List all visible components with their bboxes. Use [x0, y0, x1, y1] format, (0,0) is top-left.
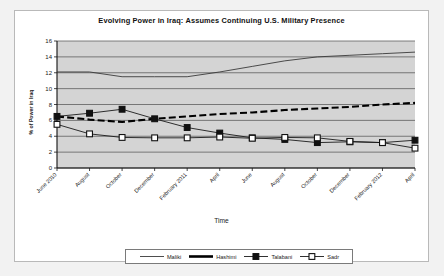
legend-label-maliki: Maliki — [167, 254, 181, 260]
x-tick-label: April — [404, 171, 416, 183]
legend-item-talabani[interactable]: Talabani — [243, 252, 292, 261]
y-tick-label: 10 — [45, 86, 52, 92]
data-point-talabani — [152, 116, 158, 122]
chart-legend: MalikiHashimiTalabaniSadr — [125, 249, 353, 264]
legend-item-hashimi[interactable]: Hashimi — [188, 252, 236, 261]
x-tick-label: December — [328, 171, 351, 194]
x-axis-title: Time — [15, 217, 428, 224]
data-point-sadr — [152, 135, 158, 141]
data-point-sadr — [184, 135, 190, 141]
data-point-sadr — [347, 139, 353, 145]
y-tick-label: 14 — [45, 54, 52, 60]
legend-swatch-maliki — [139, 252, 165, 261]
data-point-talabani — [184, 125, 190, 131]
x-tick-label: October — [300, 171, 318, 189]
legend-label-talabani: Talabani — [271, 254, 292, 260]
y-tick-label: 0 — [49, 165, 53, 171]
data-point-sadr — [119, 135, 125, 141]
data-point-sadr — [87, 131, 93, 137]
legend-label-sadr: Sadr — [327, 254, 339, 260]
y-tick-label: 4 — [49, 133, 53, 139]
legend-swatch-hashimi — [188, 252, 214, 261]
data-point-talabani — [119, 106, 125, 112]
legend-swatch-sadr — [299, 252, 325, 261]
y-tick-label: 2 — [49, 149, 53, 155]
data-point-sadr — [314, 135, 320, 141]
x-tick-label: June 2010 — [35, 171, 58, 194]
x-tick-label: August — [269, 171, 286, 188]
y-tick-label: 6 — [49, 117, 53, 123]
x-tick-label: December — [133, 171, 156, 194]
x-tick-label: June — [240, 171, 253, 184]
x-tick-label: August — [74, 171, 91, 188]
data-point-sadr — [282, 135, 288, 141]
data-point-sadr — [249, 135, 255, 141]
data-point-talabani — [412, 137, 418, 143]
legend-label-hashimi: Hashimi — [216, 254, 236, 260]
legend-swatch-talabani — [243, 252, 269, 261]
x-tick-label: October — [104, 171, 122, 189]
y-tick-label: 8 — [49, 102, 53, 108]
data-point-sadr — [412, 145, 418, 151]
data-point-sadr — [217, 134, 223, 140]
x-tick-label: April — [208, 171, 220, 183]
chart-frame: Evolving Power in Iraq: Assumes Continui… — [14, 10, 429, 262]
legend-item-maliki[interactable]: Maliki — [139, 252, 181, 261]
data-point-talabani — [54, 114, 60, 120]
y-tick-label: 12 — [45, 70, 52, 76]
data-point-sadr — [54, 121, 60, 127]
legend-item-sadr[interactable]: Sadr — [299, 252, 339, 261]
x-tick-label: February 2012 — [353, 171, 383, 201]
chart-container: Evolving Power in Iraq: Assumes Continui… — [0, 0, 444, 276]
y-tick-label: 16 — [45, 38, 52, 44]
data-point-sadr — [380, 140, 386, 146]
data-point-talabani — [87, 110, 93, 116]
x-tick-label: February 2011 — [158, 171, 188, 201]
